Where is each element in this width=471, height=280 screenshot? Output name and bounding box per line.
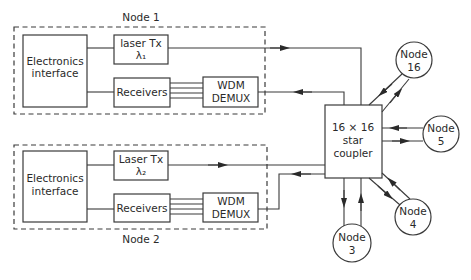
node-16: Node 16 [369,42,432,112]
node-2-laser-label: Laser Tx [119,153,164,165]
coupler-size: 16 × 16 [332,121,375,133]
node-2-group: Node 2 Electronics interface Laser Tx λ₂… [14,145,267,245]
node-1-demux-line1: WDM [217,79,245,91]
node-1-wavelength: λ₁ [136,49,146,61]
node-1-label: Node 1 [122,11,159,23]
node-5-line1: Node [427,122,454,134]
node-4-rx-arrow [378,186,389,196]
node-2-receivers-label: Receivers [117,202,168,214]
node-3: Node 3 [333,178,371,262]
node-3-line1: Node [338,231,365,243]
node-3-circle [333,224,371,262]
node-1-demux-line2: DEMUX [212,92,251,104]
node-1-electronics-line1: Electronics [26,55,83,67]
node-16-line2: 16 [407,61,421,73]
node-2-electronics-line2: interface [32,185,79,197]
node-1-receivers-label: Receivers [117,86,168,98]
node-1-group: Node 1 Electronics interface laser Tx λ₁… [14,11,265,114]
coupler-line3: coupler [333,147,373,159]
node-16-tx-arrow [390,92,399,103]
node-2-label: Node 2 [122,233,159,245]
node-1-demux-to-receivers-fibers [170,83,203,98]
node-2-wavelength: λ₂ [136,165,146,177]
node-4-line2: 4 [410,218,417,230]
node-5-line2: 5 [438,135,445,147]
node-1-laser-label: laser Tx [120,37,162,49]
node-4-line1: Node [399,205,426,217]
node-2-demux-line1: WDM [217,195,245,207]
star-coupler: 16 × 16 star coupler [325,105,382,178]
node-4-tx-arrow [391,181,400,190]
node-2-demux-line2: DEMUX [212,208,251,220]
node-3-line2: 3 [349,244,356,256]
node-2-demux-to-receivers-fibers [170,199,203,214]
node-1-electronics-line2: interface [32,67,79,79]
wdm-network-diagram: Node 1 Electronics interface laser Tx λ₁… [0,0,471,280]
coupler-line2: star [343,134,364,146]
node-2-electronics-line1: Electronics [26,172,83,184]
node-4: Node 4 [369,173,431,235]
node-16-line1: Node [400,48,427,60]
node-1-rx-fiber [258,92,344,105]
node-16-rx-arrow [382,84,392,93]
node-5: Node 5 [382,116,459,152]
node-2-rx-fiber [258,174,325,209]
